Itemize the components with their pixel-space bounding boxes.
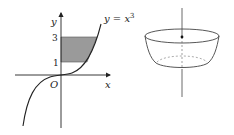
x-axis-label: x [105, 79, 111, 90]
shaded-region [61, 37, 97, 62]
tick-label-1: 1 [53, 58, 59, 68]
axis-center-dot [181, 36, 184, 39]
curve-label: y = x3 [103, 12, 135, 24]
origin-label: O [50, 79, 58, 90]
y-axis-label: y [50, 16, 57, 27]
bowl-solid [145, 8, 219, 97]
tick-label-3: 3 [52, 33, 58, 43]
cubic-graph: y x O 3 1 y = x3 [15, 12, 135, 128]
diagram-canvas: y x O 3 1 y = x3 [0, 0, 234, 135]
